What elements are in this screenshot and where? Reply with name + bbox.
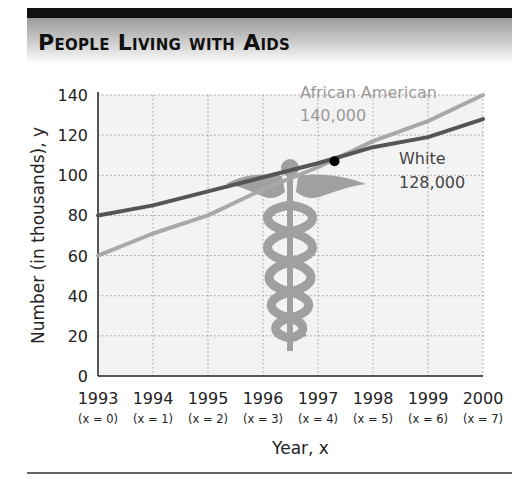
x-sublabel: (x = 2) (188, 412, 228, 426)
y-tick-label: 0 (78, 367, 88, 386)
y-tick-label: 120 (57, 126, 88, 145)
x-axis-title: Year, x (271, 438, 329, 458)
intersection-point (330, 156, 340, 166)
label-white: White (399, 149, 446, 168)
x-sublabel: (x = 6) (408, 412, 448, 426)
x-tick-label: 1996 (243, 389, 284, 408)
x-tick-label: 2000 (463, 389, 504, 408)
footer-divider (27, 472, 512, 474)
x-tick-label: 1993 (78, 389, 119, 408)
y-tick-label: 60 (68, 247, 88, 266)
x-sublabel: (x = 7) (463, 412, 503, 426)
x-sublabel: (x = 0) (78, 412, 118, 426)
x-tick-label: 1999 (408, 389, 449, 408)
y-tick-label: 100 (57, 166, 88, 185)
x-tick-label: 1994 (133, 389, 174, 408)
y-tick-label: 140 (57, 86, 88, 105)
x-sublabel: (x = 5) (353, 412, 393, 426)
x-sublabel: (x = 1) (133, 412, 173, 426)
label-white-value: 128,000 (399, 173, 465, 192)
x-tick-label: 1995 (188, 389, 229, 408)
y-tick-label: 20 (68, 327, 88, 346)
x-tick-label: 1998 (353, 389, 394, 408)
label-african-american-value: 140,000 (300, 106, 366, 125)
y-axis-title: Number (in thousands), y (28, 127, 48, 344)
x-tick-label: 1997 (298, 389, 339, 408)
x-sublabel: (x = 4) (298, 412, 338, 426)
y-tick-label: 40 (68, 287, 88, 306)
x-sublabel: (x = 3) (243, 412, 283, 426)
label-african-american: African American (300, 83, 437, 102)
y-tick-label: 80 (68, 206, 88, 225)
line-chart: 0204060801001201401993(x = 0)1994(x = 1)… (0, 0, 526, 479)
